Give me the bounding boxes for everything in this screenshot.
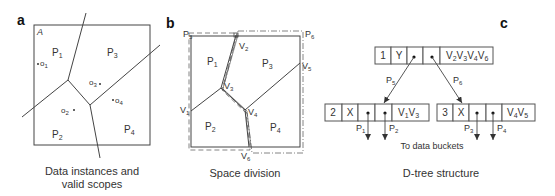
edge-label-p6: P6 — [453, 75, 463, 86]
leaf-label-p1: P1 — [356, 123, 366, 134]
partition-label-p1: P1 — [207, 56, 218, 68]
division-line — [90, 105, 100, 158]
panel-c: c 1 Y V2V3V4V6 P5 P6 2 X — [325, 15, 535, 179]
instance-label-o3: o3 — [89, 78, 97, 88]
partition-label-p4: P4 — [270, 122, 281, 134]
instance-point — [73, 109, 75, 111]
buckets-label: To data buckets — [400, 141, 464, 151]
right-id: 3 — [442, 107, 448, 118]
label-p6: P6 — [305, 29, 315, 40]
left-dim: X — [347, 107, 354, 118]
leaf-label-p3: P3 — [464, 123, 474, 134]
panel-b-letter: b — [166, 15, 175, 31]
panel-c-caption: D-tree structure — [403, 167, 479, 179]
label-v5: V5 — [302, 61, 312, 72]
division-line — [191, 88, 221, 111]
leaf-label-p2: P2 — [389, 123, 399, 134]
panel-a-letter: a — [17, 12, 25, 28]
panel-b-caption: Space division — [210, 167, 281, 179]
panel-a-caption-line1: Data instances and — [45, 165, 139, 177]
partition-label-p4: P4 — [124, 124, 135, 136]
right-child-node: 3 X V4V5 P3 P4 — [437, 104, 535, 140]
label-p5: P5 — [183, 29, 193, 40]
left-id: 2 — [330, 107, 336, 118]
panel-c-letter: c — [500, 15, 508, 31]
instance-point — [99, 83, 101, 85]
root-vertices: V2V3V4V6 — [446, 50, 488, 62]
instance-point — [112, 99, 114, 101]
division-line — [68, 80, 90, 105]
left-child-node: 2 X V1V3 P1 P2 — [325, 104, 429, 140]
leaf-label-p4: P4 — [497, 123, 507, 134]
partition-label-p2: P2 — [205, 121, 216, 133]
root-id: 1 — [380, 50, 386, 61]
label-v6: V6 — [241, 151, 251, 162]
instance-point — [37, 63, 39, 65]
instance-label-o4: o4 — [115, 96, 123, 106]
label-v3: V3 — [224, 81, 234, 92]
root-dim: Y — [396, 50, 403, 61]
instance-label-o1: o1 — [40, 59, 48, 69]
region-label: A — [36, 27, 43, 37]
division-line — [245, 63, 300, 110]
panel-a: a A P1 P3 P2 P4 o1 o3 o4 o2 Data instanc… — [17, 12, 160, 190]
right-dim: X — [458, 107, 465, 118]
panel-b: b P5 P6 V2 V5 V3 V4 V1 V6 P1 P3 P2 P4 Sp… — [166, 15, 315, 179]
panel-a-caption-line2: valid scopes — [62, 178, 123, 190]
d-tree-figure: a A P1 P3 P2 P4 o1 o3 o4 o2 Data instanc… — [0, 0, 555, 196]
p6-dashdot-boundary — [223, 31, 303, 153]
root-node: 1 Y V2V3V4V6 — [375, 47, 493, 64]
instance-label-o2: o2 — [61, 106, 69, 116]
edge-label-p5: P5 — [386, 75, 396, 86]
partition-label-p1: P1 — [52, 47, 63, 59]
partition-label-p3: P3 — [262, 58, 273, 70]
division-line — [223, 89, 247, 111]
partition-label-p3: P3 — [107, 47, 118, 59]
label-v4: V4 — [248, 107, 258, 118]
label-v1: V1 — [180, 105, 190, 116]
label-v2: V2 — [239, 41, 249, 52]
division-line — [68, 13, 86, 80]
partition-label-p2: P2 — [52, 129, 63, 141]
